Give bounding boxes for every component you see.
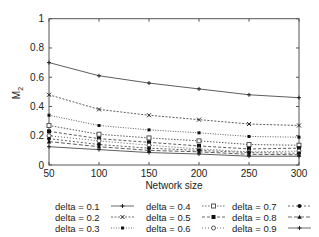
y-tick-label: 0.4: [30, 101, 44, 112]
series-8: [47, 139, 301, 156]
series-9: [47, 145, 301, 159]
legend-item: delta = 0.1: [55, 201, 134, 212]
legend-item: delta = 0.5: [146, 212, 225, 223]
x-tick-label: 50: [43, 168, 55, 179]
legend-label: delta = 0.9: [232, 223, 277, 234]
legend-label: delta = 0.8: [232, 212, 277, 223]
series-2: [47, 93, 301, 128]
series-4: [47, 123, 301, 147]
legend-label: delta = 0.4: [146, 201, 191, 212]
legend-item: delta = 0.9: [232, 223, 311, 234]
series-1: [47, 61, 301, 100]
x-tick-label: 150: [141, 168, 158, 179]
x-tick-label: 200: [191, 168, 208, 179]
y-tick-label: 1: [38, 13, 44, 24]
y-tick-label: 0.2: [30, 130, 44, 141]
x-tick-label: 300: [291, 168, 308, 179]
x-tick-label: 250: [241, 168, 258, 179]
legend-item: delta = 0.6: [146, 223, 225, 234]
series-5: [47, 129, 301, 151]
legend-label: delta = 0.6: [146, 223, 191, 234]
y-tick-label: 0.6: [30, 72, 44, 83]
line-chart: 5010015020025030000.20.40.60.81 Network …: [0, 0, 319, 237]
legend-item: delta = 0.4: [146, 201, 225, 212]
legend-label: delta = 0.5: [146, 212, 191, 223]
y-tick-label: 0.8: [30, 42, 44, 53]
legend-label: delta = 0.2: [55, 212, 100, 223]
y-tick-label: 0: [38, 160, 44, 171]
legend-label: delta = 0.7: [232, 201, 277, 212]
legend-item: delta = 0.2: [55, 212, 134, 223]
x-axis-title: Network size: [145, 180, 203, 191]
legend-label: delta = 0.1: [55, 201, 100, 212]
x-tick-label: 100: [91, 168, 108, 179]
legend-item: delta = 0.7: [232, 201, 311, 212]
series-group: [47, 61, 301, 159]
legend: delta = 0.1delta = 0.2delta = 0.3delta =…: [55, 201, 311, 234]
legend-item: delta = 0.3: [55, 223, 134, 234]
legend-label: delta = 0.3: [55, 223, 100, 234]
legend-item: delta = 0.8: [232, 212, 311, 223]
y-axis-title: M2: [11, 87, 24, 99]
